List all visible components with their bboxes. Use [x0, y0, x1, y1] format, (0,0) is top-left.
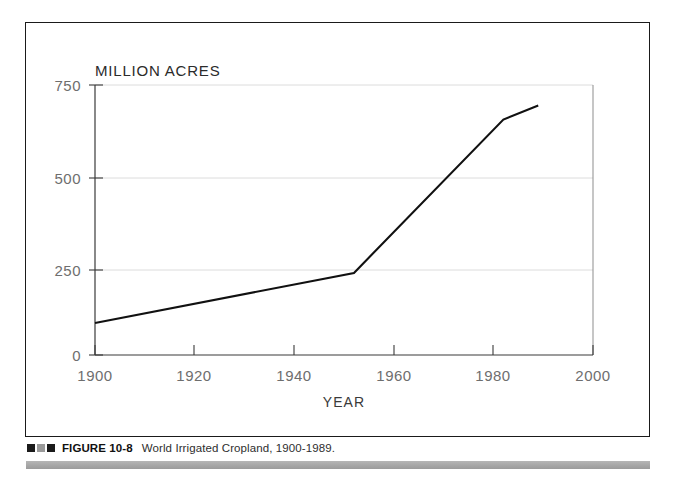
- caption-bottom-rule: [26, 461, 650, 469]
- x-tick-marks: [95, 345, 593, 355]
- x-tick-label-1940: 1940: [276, 367, 311, 384]
- y-tick-label-500: 500: [54, 170, 81, 187]
- figure-frame: 750 500 250 0 1900 1920 1940 1960 1980 2…: [25, 22, 650, 437]
- x-tick-label-1920: 1920: [176, 367, 211, 384]
- data-series-world-irrigated-cropland: [95, 106, 538, 323]
- x-tick-label-1960: 1960: [376, 367, 411, 384]
- x-tick-label-1900: 1900: [77, 367, 112, 384]
- line-chart: 750 500 250 0 1900 1920 1940 1960 1980 2…: [26, 23, 649, 436]
- y-tick-label-750: 750: [54, 77, 81, 94]
- x-tick-label-1980: 1980: [475, 367, 510, 384]
- caption-marker-square-1: [27, 444, 35, 452]
- caption-figure-number: FIGURE 10-8: [62, 442, 133, 454]
- y-axis-unit-label: MILLION ACRES: [95, 62, 220, 79]
- caption-marker-group: [27, 444, 55, 452]
- y-tick-label-0: 0: [72, 347, 81, 364]
- x-tick-label-2000: 2000: [575, 367, 610, 384]
- x-axis-title: YEAR: [323, 394, 366, 410]
- caption-description: World Irrigated Cropland, 1900-1989.: [142, 442, 335, 454]
- y-tick-label-250: 250: [54, 262, 81, 279]
- caption-marker-square-3: [47, 444, 55, 452]
- figure-caption: FIGURE 10-8 World Irrigated Cropland, 19…: [27, 440, 651, 456]
- y-tick-marks: [89, 85, 103, 355]
- caption-marker-square-2: [37, 444, 45, 452]
